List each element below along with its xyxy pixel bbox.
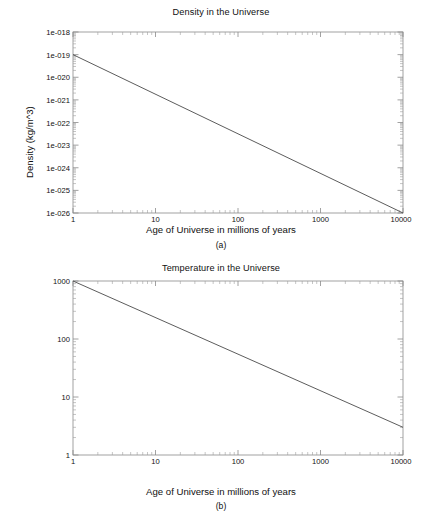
y-tick-label: 10 [34, 393, 70, 402]
x-tick-label: 10000 [390, 215, 411, 224]
x-tick-label: 10 [151, 215, 159, 224]
y-tick-label: 1e-025 [32, 186, 70, 195]
y-axis-title-density: Density (kg/m^3) [24, 106, 35, 178]
x-minor-ticks [98, 281, 399, 455]
x-tick-label: 10 [151, 457, 159, 466]
y-tick-label: 1e-018 [32, 28, 70, 37]
y-minor-ticks [73, 284, 403, 438]
plot-area-density [0, 0, 442, 258]
y-tick-label: 100 [34, 335, 70, 344]
y-major-ticks [73, 281, 403, 455]
y-major-ticks [73, 32, 403, 213]
y-tick-label: 1e-019 [32, 50, 70, 59]
y-tick-label: 1e-023 [32, 141, 70, 150]
data-line-density [73, 55, 403, 213]
figure-caption-a: (a) [0, 240, 442, 250]
x-tick-label: 1000 [312, 215, 329, 224]
y-tick-label: 1e-020 [32, 73, 70, 82]
figure-density: Density in the Universe [0, 0, 442, 258]
x-tick-label: 1000 [312, 457, 329, 466]
figure-temperature: Temperature in the Universe [0, 258, 442, 519]
y-tick-label: 1e-026 [32, 209, 70, 218]
x-major-ticks [73, 32, 403, 213]
y-minor-ticks [73, 33, 403, 206]
y-tick-label: 1e-022 [32, 118, 70, 127]
y-tick-label: 1e-024 [32, 163, 70, 172]
x-axis-title-temperature: Age of Universe in millions of years [0, 486, 442, 497]
figure-caption-b: (b) [0, 501, 442, 511]
x-tick-label: 10000 [390, 457, 411, 466]
data-line-temperature [73, 281, 403, 427]
x-tick-label: 100 [232, 215, 245, 224]
x-tick-label: 100 [232, 457, 245, 466]
y-tick-label: 1e-021 [32, 95, 70, 104]
y-tick-label: 1 [34, 451, 70, 460]
x-axis-title-density: Age of Universe in millions of years [0, 224, 442, 235]
x-major-ticks [73, 281, 403, 455]
x-minor-ticks [98, 32, 399, 213]
x-tick-label: 1 [71, 215, 75, 224]
plot-area-temperature [0, 258, 442, 519]
y-tick-label: 1000 [34, 277, 70, 286]
x-tick-label: 1 [71, 457, 75, 466]
